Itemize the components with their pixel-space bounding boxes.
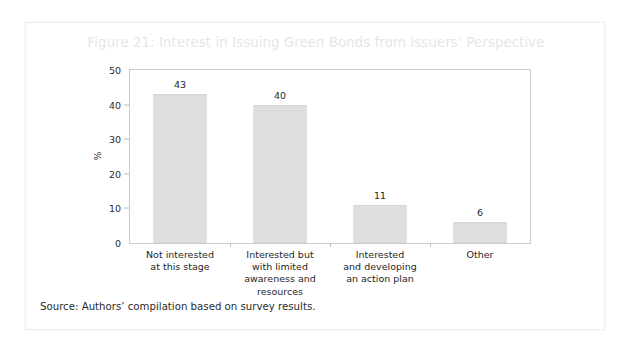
x-axis-category-label: Not interestedat this stage xyxy=(130,249,230,273)
x-axis-category-line: resources xyxy=(230,286,330,298)
figure-page: Figure 21: Interest in Issuing Green Bon… xyxy=(0,0,628,347)
bar[interactable] xyxy=(354,205,407,243)
x-axis-category-line: Other xyxy=(430,249,530,261)
bar-group: 43 xyxy=(130,70,230,243)
bar[interactable] xyxy=(454,222,507,243)
x-axis-category-line: and developing xyxy=(330,261,430,273)
x-axis-category-line: awareness and xyxy=(230,273,330,285)
y-axis-title: % xyxy=(93,152,103,161)
bar[interactable] xyxy=(154,94,207,243)
x-axis-category-line: Interested but xyxy=(230,249,330,261)
bar-chart: 01020304050 % 4340116 Not interestedat t… xyxy=(26,23,606,331)
y-tick-mark xyxy=(124,104,129,105)
y-tick-label: 0 xyxy=(115,238,121,249)
bar-group: 11 xyxy=(330,70,430,243)
bar-group: 6 xyxy=(430,70,530,243)
y-tick-label: 10 xyxy=(109,203,121,214)
x-axis-category-label: Interested butwith limitedawareness andr… xyxy=(230,249,330,298)
x-tick-mark xyxy=(430,243,431,247)
y-tick-mark xyxy=(124,208,129,209)
bar-value-label: 11 xyxy=(374,190,386,201)
x-axis-category-line: Interested xyxy=(330,249,430,261)
x-tick-mark xyxy=(330,243,331,247)
bar-value-label: 40 xyxy=(274,90,286,101)
figure-card: Figure 21: Interest in Issuing Green Bon… xyxy=(25,22,605,330)
x-axis-category-label: Other xyxy=(430,249,530,261)
bars-layer: 4340116 xyxy=(130,70,530,243)
y-tick-label: 40 xyxy=(109,99,121,110)
x-axis-category-line: with limited xyxy=(230,261,330,273)
x-axis-category-line: at this stage xyxy=(130,261,230,273)
bar[interactable] xyxy=(254,105,307,243)
x-axis-category-line: an action plan xyxy=(330,273,430,285)
y-tick-mark xyxy=(124,139,129,140)
source-note: Source: Authors’ compilation based on su… xyxy=(40,301,315,312)
x-axis-category-line: Not interested xyxy=(130,249,230,261)
bar-group: 40 xyxy=(230,70,330,243)
x-axis-category-label: Interestedand developingan action plan xyxy=(330,249,430,286)
y-axis: 01020304050 xyxy=(26,69,129,244)
bar-value-label: 43 xyxy=(174,79,186,90)
y-tick-label: 20 xyxy=(109,168,121,179)
x-tick-mark xyxy=(230,243,231,247)
y-tick-label: 50 xyxy=(109,65,121,76)
y-tick-label: 30 xyxy=(109,134,121,145)
bar-value-label: 6 xyxy=(477,207,483,218)
y-tick-mark xyxy=(124,173,129,174)
